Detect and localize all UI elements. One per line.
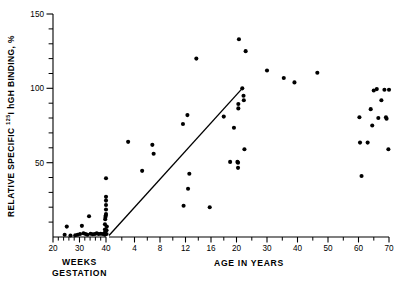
gestation-axis-title-line2: GESTATION [52,268,107,278]
data-point [370,123,374,127]
data-point [63,233,67,237]
age-tick-label-20: 20 [232,244,242,253]
data-point [232,126,236,130]
data-point [375,87,379,91]
gestation-tick-label-30: 30 [75,244,85,253]
y-axis-minor-ticks [49,29,53,222]
data-point [379,98,383,102]
data-point [360,174,364,178]
x-axis-age: 4 8 12 16 20 30 40 50 60 70 AGE IN YEARS [109,237,394,268]
age-axis-title: AGE IN YEARS [214,258,284,268]
data-point [358,141,362,145]
data-point [376,116,380,120]
data-point [366,141,370,145]
data-point [104,203,108,207]
age-tick-label-4: 4 [132,244,137,253]
y-tick-label-50: 50 [35,159,45,168]
age-tick-label-12: 12 [181,244,191,253]
data-point [104,212,108,216]
regression-line [109,88,242,235]
data-point [104,232,108,236]
gestation-axis-title-line1: WEEKS [62,257,97,267]
data-point [228,160,232,164]
y-axis-title-pre: RELATIVE SPECIFIC [6,125,16,217]
age-tick-label-8: 8 [158,244,163,253]
data-point [387,88,391,92]
data-point [68,233,72,237]
data-point [87,214,91,218]
data-point [104,199,108,203]
svg-text:RELATIVE SPECIFIC 125I hGH BIN: RELATIVE SPECIFIC 125I hGH BINDING, % [5,35,16,217]
data-point [194,57,198,61]
age-tick-label-30: 30 [262,244,272,253]
data-point [236,102,240,106]
gestation-major-ticks [53,237,106,243]
data-point [382,88,386,92]
data-point [236,166,240,170]
data-point [236,106,240,110]
y-axis-title: RELATIVE SPECIFIC 125I hGH BINDING, % [5,35,16,217]
data-marks-layer [63,37,391,237]
data-point [187,172,191,176]
trend-line-layer [109,88,242,235]
age-tick-label-50: 50 [323,244,333,253]
data-point [265,68,269,72]
data-point [152,152,156,156]
data-point [104,176,108,180]
y-tick-label-100: 100 [30,84,44,93]
y-axis-title-post: I hGH BINDING, % [6,35,16,114]
y-tick-label-150: 150 [30,10,44,19]
figure-scatter-plot: 150 100 50 RELATIVE SPECIFIC 125I hGH BI… [0,0,401,285]
age-tick-label-16: 16 [206,244,216,253]
data-point [222,115,226,119]
data-point [315,71,319,75]
data-point [237,37,241,41]
data-point [182,204,186,208]
age-tick-label-70: 70 [384,244,394,253]
x-axis-gestation: 20 30 40 WEEKS GESTATION [48,237,111,278]
data-point [282,76,286,80]
data-point [242,98,246,102]
data-point [186,187,190,191]
data-point [80,224,84,228]
data-point [104,228,108,232]
data-point [208,205,212,209]
data-point [140,169,144,173]
data-point [241,94,245,98]
y-axis: 150 100 50 [30,10,53,237]
data-point [104,195,108,199]
data-point [244,49,248,53]
data-point [236,161,240,165]
y-axis-title-superscript: 125 [5,114,11,124]
gestation-tick-label-20: 20 [48,244,58,253]
gestation-tick-label-40: 40 [101,244,111,253]
data-point [150,143,154,147]
data-point [292,80,296,84]
data-point [78,232,82,236]
data-point [105,225,109,229]
data-point [185,113,189,117]
data-point [386,147,390,151]
chart-canvas: 150 100 50 RELATIVE SPECIFIC 125I hGH BI… [0,0,401,285]
data-point [242,147,246,151]
data-point [357,115,361,119]
data-point [181,122,185,126]
data-point [369,107,373,111]
age-tick-label-60: 60 [354,244,364,253]
data-point [65,225,69,229]
age-tick-label-40: 40 [293,244,303,253]
y-axis-major-ticks [47,14,54,163]
data-point [126,140,130,144]
data-point [104,207,108,211]
data-point [385,117,389,121]
